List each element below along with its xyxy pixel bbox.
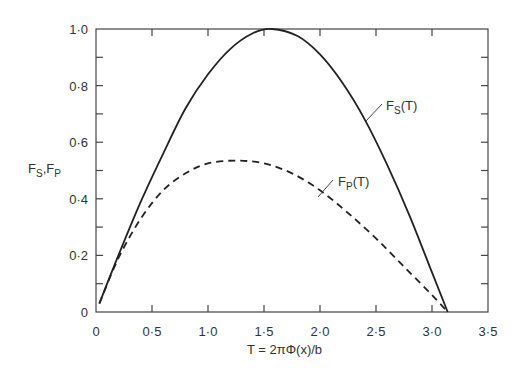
x-tick-labels: 00·51·01·52·02·53·03·5 (92, 324, 497, 339)
fp-leader-line (318, 180, 333, 197)
fs-label: FS(T) (386, 98, 417, 116)
x-tick-label: 0·5 (143, 324, 162, 339)
x-tick-label: 0 (92, 324, 99, 339)
y-tick-label: 1·0 (69, 22, 88, 37)
y-tick-label: 0·4 (69, 192, 88, 207)
x-tick-label: 2·0 (311, 324, 330, 339)
x-tick-label: 2·5 (367, 324, 386, 339)
chart: 00·51·01·52·02·53·03·5 00·20·40·60·81·0 … (0, 0, 516, 381)
y-tick-labels: 00·20·40·60·81·0 (69, 22, 88, 320)
x-tick-label: 3·0 (423, 324, 442, 339)
y-tick-label: 0·6 (69, 135, 88, 150)
fp-label: FP(T) (338, 174, 369, 192)
fs-leader-line (366, 104, 382, 121)
fs-curve (99, 29, 447, 312)
x-axis-title: T = 2πΦ(x)/b (247, 342, 322, 357)
y-tick-label: 0·8 (69, 79, 88, 94)
y-tick-label: 0·2 (69, 248, 88, 263)
x-tick-label: 3·5 (479, 324, 498, 339)
y-axis-title: FS,FP (28, 161, 61, 179)
x-tick-label: 1·5 (255, 324, 274, 339)
y-tick-label: 0 (81, 305, 88, 320)
x-tick-label: 1·0 (199, 324, 218, 339)
